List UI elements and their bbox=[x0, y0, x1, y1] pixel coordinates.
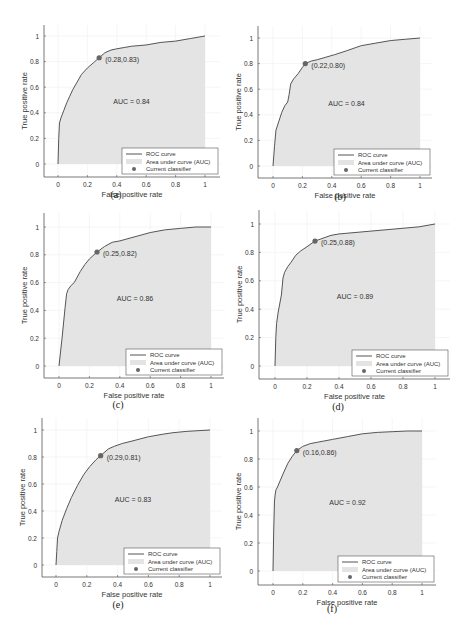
caption-e: (e) bbox=[98, 599, 138, 610]
caption-b: (b) bbox=[320, 191, 360, 202]
svg-text:Current classifier: Current classifier bbox=[362, 574, 407, 580]
svg-text:0.2: 0.2 bbox=[244, 540, 253, 547]
svg-text:0.2: 0.2 bbox=[298, 589, 307, 596]
caption-a: (a) bbox=[96, 189, 136, 200]
svg-text:0.4: 0.4 bbox=[328, 589, 337, 596]
svg-text:0: 0 bbox=[271, 589, 275, 596]
svg-text:0.8: 0.8 bbox=[244, 456, 253, 463]
svg-text:1: 1 bbox=[249, 428, 253, 435]
svg-text:0.8: 0.8 bbox=[388, 589, 397, 596]
classifier-point-label: (0.16,0.86) bbox=[303, 449, 337, 457]
svg-text:0.6: 0.6 bbox=[244, 484, 253, 491]
svg-text:1: 1 bbox=[420, 589, 424, 596]
current-classifier-marker bbox=[294, 448, 299, 453]
svg-text:0.6: 0.6 bbox=[358, 589, 367, 596]
svg-text:ROC curve: ROC curve bbox=[362, 559, 392, 565]
y-axis-label: True positive rate bbox=[234, 473, 243, 531]
caption-c: (c) bbox=[98, 399, 138, 410]
caption-d: (d) bbox=[318, 401, 358, 412]
svg-text:0.4: 0.4 bbox=[244, 512, 253, 519]
svg-text:Area under curve (AUC): Area under curve (AUC) bbox=[362, 567, 426, 573]
legend: ROC curveArea under curve (AUC)Current c… bbox=[338, 556, 434, 582]
auc-label: AUC = 0.92 bbox=[329, 499, 365, 506]
svg-text:0: 0 bbox=[249, 568, 253, 575]
caption-f: (f) bbox=[312, 603, 352, 614]
